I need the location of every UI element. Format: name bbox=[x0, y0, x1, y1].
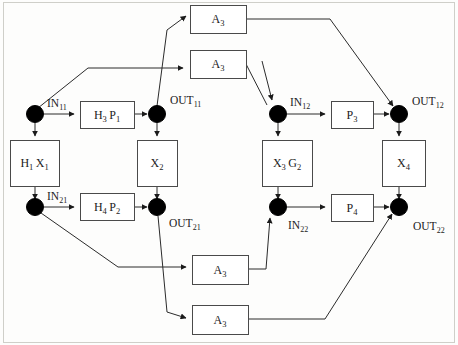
node-label-in11: IN11 bbox=[47, 97, 67, 112]
node-in22[interactable]: IN22 bbox=[270, 199, 309, 235]
block-x2[interactable]: X2 bbox=[138, 141, 178, 187]
block-rect-a3_bot1 bbox=[193, 256, 249, 285]
node-label-out21: OUT21 bbox=[169, 217, 201, 232]
node-out12[interactable]: OUT12 bbox=[391, 95, 444, 123]
block-rect-p4 bbox=[332, 195, 374, 222]
node-label-out12: OUT12 bbox=[412, 95, 444, 110]
block-rect-x4 bbox=[383, 141, 426, 187]
block-a3_top1[interactable]: A3 bbox=[191, 6, 247, 34]
node-label-out22: OUT22 bbox=[413, 220, 445, 235]
block-rect-h3p1 bbox=[81, 102, 135, 129]
node-in21[interactable]: IN21 bbox=[27, 190, 68, 216]
block-rect-a3_bot2 bbox=[193, 306, 249, 335]
block-a3_top2[interactable]: A3 bbox=[191, 51, 247, 79]
block-h1x1[interactable]: H1 X1 bbox=[11, 141, 60, 187]
diagram-svg: A3A3H3 P1P3H1 X1X2X3 G2X4H4 P2P4A3A3 IN1… bbox=[0, 0, 458, 345]
node-label-in22: IN22 bbox=[288, 219, 308, 234]
block-rect-a3_top1 bbox=[191, 6, 247, 34]
edge-e-a3b2-out22 bbox=[248, 214, 392, 319]
node-dot-in11 bbox=[27, 106, 44, 123]
node-dot-out21 bbox=[149, 199, 166, 216]
node-label-out11: OUT11 bbox=[170, 94, 201, 109]
node-dot-in12 bbox=[270, 106, 287, 123]
node-dot-in21 bbox=[27, 199, 44, 216]
block-rect-h1x1 bbox=[11, 141, 60, 187]
block-p3[interactable]: P3 bbox=[332, 102, 374, 129]
block-a3_bot2[interactable]: A3 bbox=[193, 306, 249, 335]
node-out11[interactable]: OUT11 bbox=[149, 94, 202, 123]
node-out21[interactable]: OUT21 bbox=[149, 199, 201, 233]
block-a3_bot1[interactable]: A3 bbox=[193, 256, 249, 285]
block-rect-a3_top2 bbox=[191, 51, 247, 79]
node-dot-out12 bbox=[391, 106, 408, 123]
node-label-in12: IN12 bbox=[290, 96, 310, 111]
diagram-canvas: A3A3H3 P1P3H1 X1X2X3 G2X4H4 P2P4A3A3 IN1… bbox=[0, 0, 458, 345]
block-rect-x3g2 bbox=[263, 141, 313, 187]
edge-e-in21-a3b1 bbox=[41, 213, 186, 267]
node-out22[interactable]: OUT22 bbox=[391, 199, 445, 236]
block-h3p1[interactable]: H3 P1 bbox=[81, 102, 135, 129]
edge-e-out11-up bbox=[157, 16, 186, 106]
block-rect-x2 bbox=[138, 141, 178, 187]
block-x4[interactable]: X4 bbox=[383, 141, 426, 187]
block-h4p2[interactable]: H4 P2 bbox=[81, 194, 135, 221]
boxes-layer: A3A3H3 P1P3H1 X1X2X3 G2X4H4 P2P4A3A3 bbox=[11, 6, 426, 335]
block-rect-h4p2 bbox=[81, 194, 135, 221]
node-label-in21: IN21 bbox=[47, 190, 67, 205]
edge-e-a3b1-in22 bbox=[248, 218, 270, 269]
block-rect-p3 bbox=[332, 102, 374, 129]
edge-e-a3top1-out12 bbox=[246, 19, 393, 106]
edge-e-in12-arr bbox=[262, 61, 272, 100]
node-dot-in22 bbox=[270, 199, 287, 216]
block-p4[interactable]: P4 bbox=[332, 195, 374, 222]
node-dot-out22 bbox=[391, 199, 408, 216]
node-dot-out11 bbox=[149, 106, 166, 123]
node-in12[interactable]: IN12 bbox=[270, 96, 311, 123]
block-x3g2[interactable]: X3 G2 bbox=[263, 141, 313, 187]
